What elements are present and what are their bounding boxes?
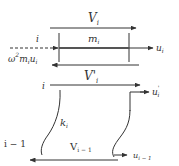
- displacement-arrow-ui-prime-shaft: [130, 92, 147, 111]
- label-inertia-force: ω2miui: [8, 51, 37, 65]
- label-ui: ui: [156, 43, 164, 54]
- label-vi-minus-1: Vi − 1: [69, 141, 92, 153]
- label-ui-minus-1: ui − 1: [133, 151, 152, 161]
- free-body-diagram: Vi ui mi i ω2miui V'i i u'i ki i − 1 Vi …: [0, 0, 179, 166]
- label-node-i-top: i: [36, 34, 39, 44]
- label-ui-prime: u'i: [152, 84, 160, 98]
- column-right-deformed: [113, 110, 130, 157]
- label-mi: mi: [88, 33, 99, 45]
- label-ki: ki: [60, 117, 68, 129]
- label-vi-top: Vi: [88, 11, 99, 27]
- label-node-i-minus-1: i − 1: [4, 139, 26, 149]
- label-node-i-bottom: i: [42, 81, 45, 91]
- column-left-deformed: [41, 90, 60, 155]
- label-vi-prime: V'i: [84, 69, 98, 85]
